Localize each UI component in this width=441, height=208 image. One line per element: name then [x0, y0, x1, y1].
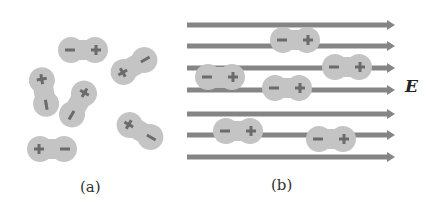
dipole: [213, 118, 263, 144]
dipole: [112, 107, 168, 155]
dipole: [270, 27, 320, 53]
dipole: [54, 76, 102, 132]
dipole: [195, 64, 245, 90]
caption-a: (a): [80, 178, 101, 196]
field-label-e: E: [405, 76, 418, 96]
dipole: [27, 65, 61, 119]
panel-a-dipoles: [27, 37, 168, 162]
caption-b: (b): [271, 176, 292, 194]
dipole: [306, 126, 356, 152]
dipole: [106, 42, 162, 90]
dipole: [262, 75, 312, 101]
dipole: [27, 136, 77, 162]
dipole-diagram: [0, 0, 441, 208]
dipole: [58, 37, 108, 63]
dipole: [322, 54, 372, 80]
